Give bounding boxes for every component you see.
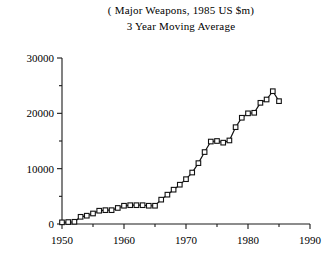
data-point [178,182,183,187]
data-point [153,203,158,208]
x-tick-label-1970: 1970 [175,234,198,246]
data-point [184,177,189,182]
y-tick-label-10000: 10000 [27,163,55,175]
y-tick-label-20000: 20000 [27,107,55,119]
data-point [209,139,214,144]
x-tick-label-1980: 1980 [237,234,260,246]
data-point [128,203,133,208]
data-point [140,203,145,208]
data-point [165,192,170,197]
data-point [246,111,251,116]
data-point [91,211,96,216]
data-point [196,161,201,166]
data-point [122,203,127,208]
data-point [116,206,121,211]
data-point [252,110,257,115]
data-point [85,213,90,218]
axes-group [62,58,310,224]
x-tick-label-group: 19501960197019801990 [51,234,322,246]
data-point [159,197,164,202]
data-point [221,140,226,145]
data-point [60,220,65,225]
data-point [258,101,263,106]
data-point [227,138,232,143]
data-point [233,125,238,130]
data-point [103,208,108,213]
x-tick-group [62,224,310,229]
data-point [147,203,152,208]
data-point [264,97,269,102]
y-tick-label-0: 0 [49,218,55,230]
y-tick-label-30000: 30000 [27,52,55,64]
data-point [134,203,139,208]
x-tick-label-1950: 1950 [51,234,74,246]
plot-area: 0100002000030000 19501960197019801990 [0,0,334,265]
chart-figure: ( Major Weapons, 1985 US $m) 3 Year Movi… [0,0,334,265]
y-tick-group [57,58,62,224]
data-point [240,115,245,120]
data-point [215,139,220,144]
data-point [72,219,77,224]
data-point [97,208,102,213]
data-point [66,220,71,225]
data-point [78,215,83,220]
data-marker-group [60,89,282,225]
x-tick-label-1990: 1990 [299,234,322,246]
y-tick-label-group: 0100002000030000 [27,52,55,230]
data-point [277,99,282,104]
data-point [171,187,176,192]
data-point [271,89,276,94]
data-point [109,208,114,213]
data-point [190,170,195,175]
data-point [202,150,207,155]
x-tick-label-1960: 1960 [113,234,136,246]
